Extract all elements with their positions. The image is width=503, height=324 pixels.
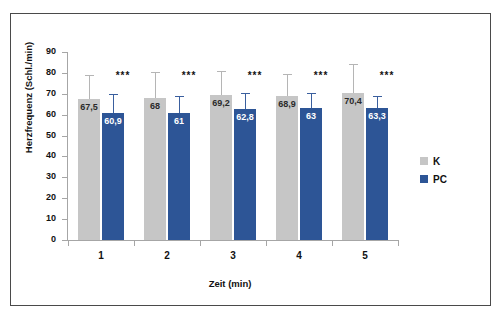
error-bar-cap <box>217 71 226 72</box>
error-bar-pc-1 <box>113 94 114 113</box>
bar-value-label: 63 <box>300 111 322 121</box>
bar-value-label: 61 <box>168 116 190 126</box>
x-axis-tick <box>200 241 201 246</box>
significance-marker-5: *** <box>367 72 407 80</box>
legend-label: PC <box>433 174 447 185</box>
bar-value-label: 62,8 <box>234 112 256 122</box>
y-axis-tick <box>62 177 67 178</box>
error-bar-cap <box>175 96 184 97</box>
y-axis-tick-label: 90 <box>14 46 56 56</box>
y-axis-tick <box>62 156 67 157</box>
y-axis-tick-label: 30 <box>14 171 56 181</box>
error-bar-cap <box>85 75 94 76</box>
error-bar-cap <box>283 74 292 75</box>
legend: KPC <box>420 152 480 188</box>
y-axis-tick <box>62 52 67 53</box>
y-axis-tick <box>62 198 67 199</box>
bar-value-label: 69,2 <box>210 98 232 108</box>
bar-value-label: 68 <box>144 101 166 111</box>
bar-value-label: 67,5 <box>78 102 100 112</box>
y-axis-tick <box>62 94 67 95</box>
y-axis-tick-label: 0 <box>14 234 56 244</box>
legend-item-pc: PC <box>420 170 480 188</box>
x-axis-tick <box>332 241 333 246</box>
x-axis-tick <box>266 241 267 246</box>
error-bar-cap <box>349 64 358 65</box>
x-axis-tick <box>398 241 399 246</box>
error-bar-k-1 <box>89 75 90 99</box>
y-axis-tick <box>62 136 67 137</box>
y-axis-tick-label: 50 <box>14 130 56 140</box>
x-axis-tick <box>68 241 69 246</box>
y-axis-tick <box>62 219 67 220</box>
bar-pc-2: 61 <box>168 113 190 240</box>
y-axis-tick-label: 70 <box>14 88 56 98</box>
bar-pc-5: 63,3 <box>366 108 388 240</box>
y-axis-tick-label: 40 <box>14 150 56 160</box>
plot-area: 67,560,9***6861***69,262,8***68,963***70… <box>68 52 398 240</box>
legend-swatch <box>420 175 428 183</box>
y-axis-tick <box>62 240 67 241</box>
bar-value-label: 60,9 <box>102 116 124 126</box>
error-bar-pc-5 <box>377 96 378 108</box>
error-bar-pc-4 <box>311 93 312 109</box>
error-bar-k-3 <box>221 71 222 95</box>
bar-value-label: 63,3 <box>366 111 388 121</box>
error-bar-cap <box>151 72 160 73</box>
legend-swatch <box>420 157 428 165</box>
error-bar-cap <box>373 96 382 97</box>
x-axis-tick-label: 5 <box>332 250 398 261</box>
x-axis-tick-label: 3 <box>200 250 266 261</box>
significance-marker-2: *** <box>169 72 209 80</box>
error-bar-k-2 <box>155 72 156 98</box>
y-axis-tick-label: 20 <box>14 192 56 202</box>
x-axis-line <box>67 240 399 241</box>
y-axis-tick-label: 60 <box>14 109 56 119</box>
y-axis-tick <box>62 73 67 74</box>
error-bar-pc-2 <box>179 96 180 113</box>
x-axis-title: Zeit (min) <box>60 278 400 289</box>
x-axis-tick <box>134 241 135 246</box>
significance-marker-3: *** <box>235 72 275 80</box>
legend-label: K <box>433 156 440 167</box>
figure: Herzfrequenz (Schl./min) Zeit (min) 0102… <box>0 0 503 324</box>
y-axis-tick-label: 80 <box>14 67 56 77</box>
significance-marker-4: *** <box>301 72 341 80</box>
x-axis-tick-label: 2 <box>134 250 200 261</box>
x-axis-tick-label: 4 <box>266 250 332 261</box>
error-bar-pc-3 <box>245 93 246 109</box>
bar-pc-4: 63 <box>300 108 322 240</box>
error-bar-k-4 <box>287 74 288 96</box>
legend-item-k: K <box>420 152 480 170</box>
bar-pc-3: 62,8 <box>234 109 256 240</box>
bar-k-4: 68,9 <box>276 96 298 240</box>
y-axis-tick <box>62 115 67 116</box>
error-bar-cap <box>109 94 118 95</box>
bar-value-label: 70,4 <box>342 96 364 106</box>
bar-k-1: 67,5 <box>78 99 100 240</box>
y-axis-tick-label: 10 <box>14 213 56 223</box>
bar-value-label: 68,9 <box>276 99 298 109</box>
error-bar-k-5 <box>353 64 354 93</box>
error-bar-cap <box>307 93 316 94</box>
bar-k-5: 70,4 <box>342 93 364 240</box>
x-axis-tick-label: 1 <box>68 250 134 261</box>
error-bar-cap <box>241 93 250 94</box>
bar-k-2: 68 <box>144 98 166 240</box>
bar-pc-1: 60,9 <box>102 113 124 240</box>
significance-marker-1: *** <box>103 72 143 80</box>
bar-k-3: 69,2 <box>210 95 232 240</box>
